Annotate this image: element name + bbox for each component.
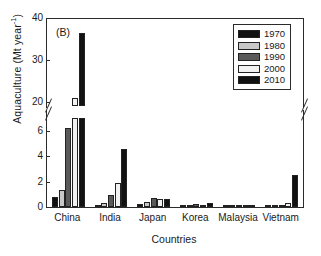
y-tick-label: 4 (37, 151, 43, 161)
bar-india-1990 (108, 195, 114, 207)
axis-frame-bottom (46, 207, 304, 208)
legend-item-1980: 1980 (238, 41, 285, 51)
bar-china-2010 (79, 118, 85, 207)
bar-upper-china-2000 (72, 98, 78, 106)
bar-india-2000 (115, 183, 121, 207)
y-axis-title: Aquaculture (Mt year-1) (9, 0, 23, 149)
bar-korea-1990 (193, 204, 199, 207)
bar-malaysia-1990 (236, 205, 242, 207)
bar-china-1980 (59, 190, 65, 207)
bar-upper-china-2010 (79, 33, 85, 106)
bar-korea-2000 (200, 205, 206, 207)
bar-vietnam-2000 (285, 203, 291, 207)
legend: 19701980199020002010 (233, 24, 291, 90)
legend-swatch-1970 (238, 30, 260, 38)
y-axis-title-exponent: -1 (9, 17, 18, 24)
bar-japan-2010 (164, 199, 170, 207)
bar-japan-1990 (151, 198, 157, 207)
legend-swatch-1990 (238, 53, 260, 61)
bar-vietnam-1980 (272, 205, 278, 207)
bar-india-2010 (121, 149, 127, 207)
y-tick-label: 0 (37, 202, 43, 212)
legend-label-2000: 2000 (264, 64, 285, 74)
bar-vietnam-1970 (265, 205, 271, 207)
bar-china-1970 (52, 197, 58, 207)
y-tick-label: 20 (32, 97, 43, 107)
legend-item-1970: 1970 (238, 29, 285, 39)
panel-label: (B) (56, 26, 70, 38)
bar-vietnam-1990 (279, 205, 285, 207)
bar-malaysia-2000 (243, 205, 249, 207)
bar-china-2000 (72, 118, 78, 207)
x-category-label-china: China (54, 212, 80, 223)
y-tick-label: 6 (37, 126, 43, 136)
bar-korea-2010 (207, 203, 213, 207)
x-axis-title: Countries (40, 233, 308, 245)
bar-japan-1970 (137, 204, 143, 207)
legend-label-1970: 1970 (264, 29, 285, 39)
bar-korea-1980 (187, 205, 193, 207)
bar-china-1990 (65, 128, 71, 207)
bar-korea-1970 (180, 205, 186, 207)
bar-india-1970 (95, 205, 101, 207)
bar-japan-1980 (144, 202, 150, 207)
legend-label-1980: 1980 (264, 41, 285, 51)
legend-item-1990: 1990 (238, 52, 285, 62)
x-category-label-malaysia: Malaysia (218, 212, 257, 223)
y-axis-title-close: ) (11, 14, 23, 18)
legend-swatch-1980 (238, 42, 260, 50)
x-category-label-korea: Korea (182, 212, 209, 223)
legend-label-2010: 2010 (264, 75, 285, 85)
legend-swatch-2000 (238, 65, 260, 73)
y-tick-mark (46, 207, 50, 208)
y-tick-label: 2 (37, 177, 43, 187)
bar-malaysia-2010 (249, 205, 255, 207)
y-tick-label: 30 (32, 55, 43, 65)
x-category-label-japan: Japan (139, 212, 166, 223)
bar-malaysia-1970 (223, 205, 229, 207)
legend-item-2010: 2010 (238, 75, 285, 85)
bar-malaysia-1980 (229, 205, 235, 207)
bar-japan-2000 (157, 199, 163, 207)
x-category-label-india: India (99, 212, 121, 223)
bar-vietnam-2010 (292, 175, 298, 207)
legend-label-1990: 1990 (264, 52, 285, 62)
y-tick-label: 40 (32, 13, 43, 23)
legend-item-2000: 2000 (238, 64, 285, 74)
y-axis-title-main: Aquaculture (Mt year (11, 24, 23, 123)
legend-swatch-2010 (238, 76, 260, 84)
figure-panel-b: Aquaculture (Mt year-1) Countries 203040… (0, 0, 321, 256)
bar-india-1980 (101, 203, 107, 207)
lower-panel-bars (47, 118, 303, 207)
x-category-label-vietnam: Vietnam (262, 212, 299, 223)
